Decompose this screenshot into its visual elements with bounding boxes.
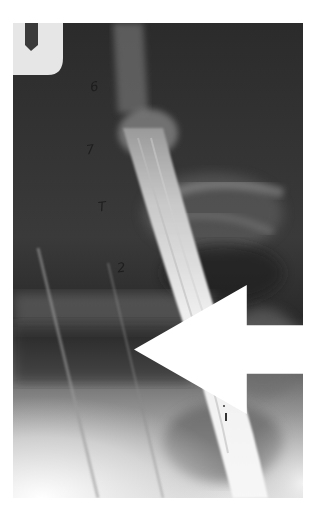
black-arrow-icon — [222, 368, 303, 498]
vertebra-label-7: 7 — [85, 142, 95, 156]
vertebra-label-t: T — [97, 200, 107, 214]
radiograph-image: 6 7 T 2 — [13, 23, 303, 498]
vertebra-label-2: 2 — [116, 260, 126, 274]
vertebra-label-6: 6 — [89, 79, 99, 93]
